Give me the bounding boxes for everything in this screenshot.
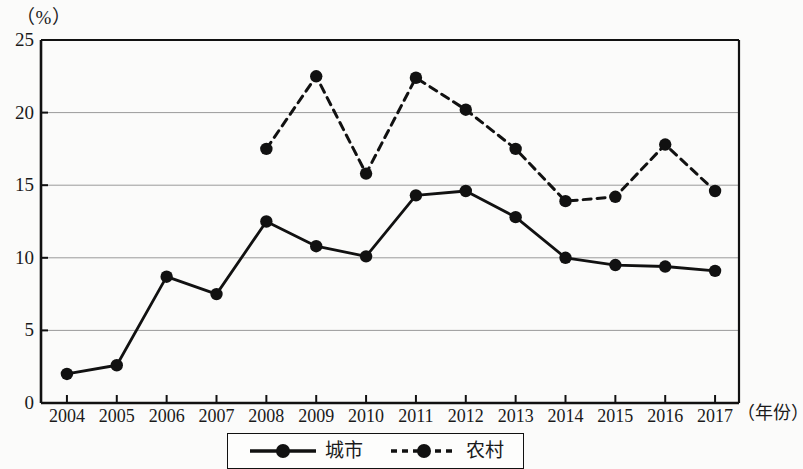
data-point-marker	[659, 138, 671, 150]
data-point-marker	[360, 167, 372, 179]
data-point-marker	[609, 191, 621, 203]
axes-frame	[41, 40, 739, 403]
gridlines	[41, 113, 739, 331]
data-point-marker	[210, 288, 222, 300]
data-point-marker	[260, 215, 272, 227]
data-point-marker	[709, 185, 721, 197]
legend-label-rural: 农村	[466, 441, 504, 462]
plot-area	[0, 0, 803, 469]
legend-swatch-dashed-line-icon	[389, 442, 459, 460]
data-point-marker	[360, 250, 372, 262]
chart-figure: （%） （年份） 0510152025 20042005200620072008…	[0, 0, 803, 469]
data-point-marker	[559, 252, 571, 264]
data-point-marker	[659, 260, 671, 272]
data-series-layer	[61, 70, 722, 380]
data-point-marker	[410, 72, 422, 84]
legend-item-city: 城市	[248, 441, 363, 462]
data-point-marker	[509, 211, 521, 223]
data-point-marker	[310, 70, 322, 82]
legend-item-rural: 农村	[389, 441, 504, 462]
data-point-marker	[509, 143, 521, 155]
data-point-marker	[460, 185, 472, 197]
chart-legend: 城市 农村	[227, 433, 524, 469]
data-point-marker	[160, 270, 172, 282]
data-point-marker	[310, 240, 322, 252]
data-point-marker	[260, 143, 272, 155]
data-point-marker	[61, 368, 73, 380]
data-point-marker	[410, 189, 422, 201]
legend-label-city: 城市	[325, 441, 363, 462]
data-point-marker	[609, 259, 621, 271]
data-point-marker	[111, 359, 123, 371]
data-point-marker	[559, 195, 571, 207]
data-point-marker	[709, 265, 721, 277]
data-point-marker	[460, 103, 472, 115]
series-city	[61, 185, 722, 380]
series-rural	[260, 70, 721, 207]
legend-swatch-solid-line-icon	[248, 442, 318, 460]
